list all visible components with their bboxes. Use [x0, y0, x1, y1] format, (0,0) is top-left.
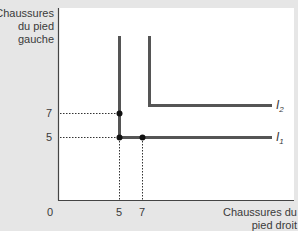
- chart: I2 I1 Chaussures du pied gauche 7 5 0 5 …: [0, 0, 298, 231]
- y-axis-label-line2: du pied: [18, 20, 54, 32]
- point-7-5: [140, 135, 146, 141]
- y-tick-7: 7: [46, 107, 52, 119]
- x-tick-7: 7: [139, 206, 145, 218]
- y-tick-5: 5: [46, 131, 52, 143]
- x-axis-label-line1: Chaussures du: [223, 206, 297, 218]
- point-5-7: [117, 111, 123, 117]
- y-axis-label-line1: Chaussures: [0, 7, 54, 19]
- point-5-5: [117, 135, 123, 141]
- y-axis-label-line3: gauche: [18, 33, 54, 45]
- x-tick-5: 5: [116, 206, 122, 218]
- x-tick-0: 0: [47, 206, 53, 218]
- x-axis-label-line2: pied droit: [252, 219, 297, 231]
